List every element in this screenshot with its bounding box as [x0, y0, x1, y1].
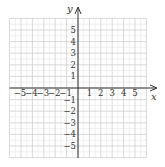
y-tick-label: −1 — [63, 95, 76, 105]
x-tick-label: 5 — [132, 88, 137, 98]
y-tick-label: 3 — [71, 48, 76, 58]
y-tick-label: 1 — [71, 71, 76, 81]
y-tick-label: −4 — [63, 129, 76, 139]
y-tick-label: 5 — [71, 25, 76, 35]
y-tick-label: −3 — [63, 118, 76, 128]
coordinate-plane: −5−4−3−2−11234554321−1−2−3−4−5 x y — [0, 0, 165, 167]
x-tick-label: 3 — [109, 88, 114, 98]
y-tick-label: 4 — [71, 37, 76, 47]
x-axis-label: x — [151, 91, 157, 102]
x-tick-label: 2 — [98, 88, 103, 98]
y-tick-label: −5 — [63, 141, 76, 151]
y-axis-label: y — [66, 3, 73, 14]
x-tick-label: 1 — [87, 88, 92, 98]
y-tick-label: −2 — [63, 106, 76, 116]
x-tick-label: 4 — [121, 88, 126, 98]
y-tick-label: 2 — [71, 60, 76, 70]
